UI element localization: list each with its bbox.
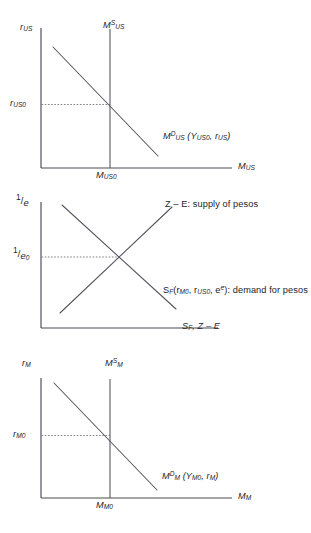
panel-foreign-exchange-market: 1/e 1/e0 Z – E: supply of pesos SF(rM0, … (0, 180, 311, 358)
foreign-exchange-plot (0, 180, 311, 358)
us-y-axis-label: rUS (20, 22, 32, 33)
mx-money-supply-label: MSM (105, 357, 123, 369)
us-x-axis-label: MUS (238, 161, 255, 172)
mx-x-axis-label: MM (238, 491, 251, 502)
mexico-money-market-plot (0, 356, 311, 533)
fx-x-axis-label: SF, Z – E (182, 321, 220, 332)
us-money-market-plot (0, 0, 311, 180)
mx-equilibrium-quantity-label: MM0 (96, 500, 113, 511)
panel-us-money-market: rUS MSUS rUS0 MDUS (YUS0, rUS) MUS MUS0 (0, 0, 311, 180)
mx-equilibrium-rate-label: rM0 (13, 429, 25, 440)
us-money-supply-label: MSUS (103, 19, 124, 31)
three-panel-economics-figure: rUS MSUS rUS0 MDUS (YUS0, rUS) MUS MUS0 … (0, 0, 311, 533)
fx-supply-curve-label: Z – E: supply of pesos (165, 199, 258, 210)
money-demand-curve (54, 383, 157, 490)
money-demand-curve (53, 47, 158, 156)
mx-money-demand-label: MDM (YM0, rM) (162, 470, 218, 482)
supply-of-pesos-curve (60, 207, 172, 313)
fx-y-axis-label: 1/e (16, 192, 29, 208)
us-money-demand-label: MDUS (YUS0, rUS) (163, 130, 230, 142)
panel-mexico-money-market: rM MSM rM0 MDM (YM0, rM) MM MM0 (0, 356, 311, 533)
us-equilibrium-rate-label: rUS0 (10, 98, 26, 109)
fx-demand-curve-label: SF(rM0, rUS0, ee): demand for pesos (163, 284, 311, 297)
mx-y-axis-label: rM (22, 358, 31, 369)
demand-for-pesos-curve (62, 205, 176, 309)
fx-equilibrium-rate-label: 1/e0 (13, 245, 30, 262)
